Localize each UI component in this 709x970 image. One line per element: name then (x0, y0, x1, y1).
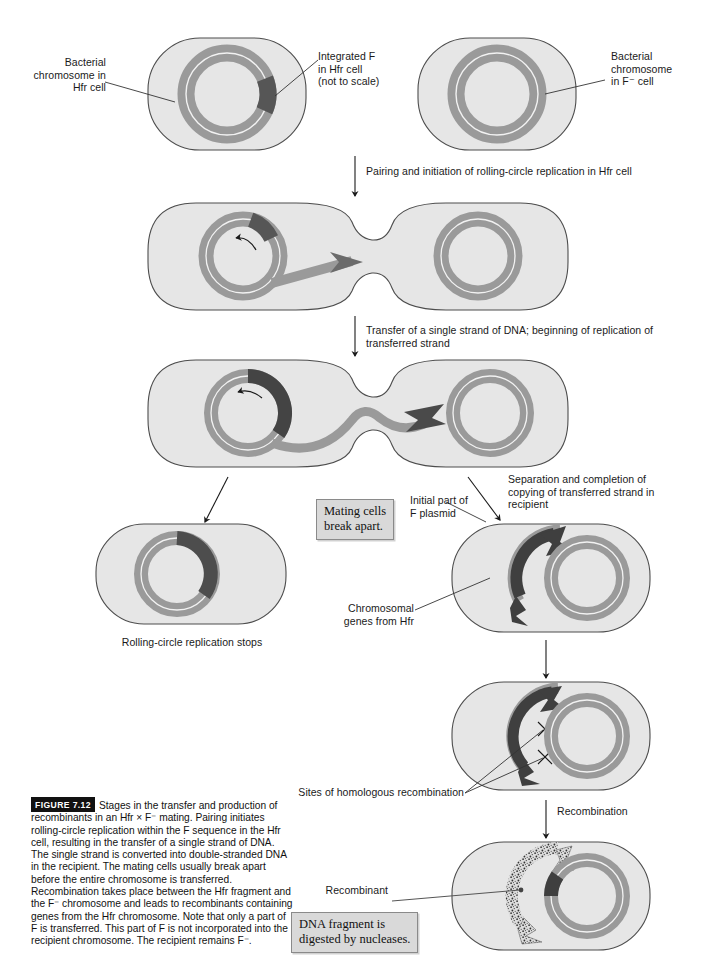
label-rolling-circle-stops: Rolling-circle replication stops (97, 636, 287, 649)
callout-mating-cells-break-apart: Mating cells break apart. (316, 499, 394, 540)
label-integrated-f: Integrated F in Hfr cell (not to scale) (318, 50, 418, 88)
leader-dot (519, 888, 524, 893)
figure-caption: FIGURE 7.12Stages in the transfer and pr… (31, 797, 293, 948)
cell-hfr-step4 (96, 524, 286, 624)
cell-fminus-step1 (418, 38, 576, 150)
label-bacterial-chromosome-hfr: Bacterial chromosome in Hfr cell (22, 56, 106, 94)
cell-pair-step2 (148, 203, 568, 310)
label-sites-homologous-recombination: Sites of homologous recombination (282, 786, 464, 799)
cell-hfr-step1 (148, 38, 306, 150)
cell-pair-step3 (148, 360, 568, 467)
figure-number-badge: FIGURE 7.12 (31, 797, 95, 812)
label-recombinant: Recombinant (292, 884, 388, 897)
cell-recombination-step5 (452, 682, 650, 790)
label-step-separation: Separation and completion of copying of … (508, 473, 698, 511)
label-step-recombination: Recombination (557, 805, 677, 818)
callout-dna-fragment-digested: DNA fragment is digested by nucleases. (291, 912, 418, 953)
cell-recombinant-step6 (452, 842, 650, 950)
figure-caption-text: Stages in the transfer and production of… (31, 800, 293, 947)
label-step-pairing: Pairing and initiation of rolling-circle… (366, 165, 696, 178)
cell-recipient-step4 (452, 524, 650, 632)
label-bacterial-chromosome-fminus: Bacterial chromosome in F⁻ cell (611, 50, 707, 88)
label-chromosomal-genes-hfr: Chromosomal genes from Hfr (326, 602, 414, 627)
arrow-to-hfr-stops (205, 477, 228, 522)
label-step-transfer: Transfer of a single strand of DNA; begi… (366, 324, 686, 349)
label-initial-part-f-plasmid: Initial part of F plasmid (410, 494, 502, 519)
figure-7-12: Bacterial chromosome in Hfr cell Integra… (0, 0, 709, 970)
